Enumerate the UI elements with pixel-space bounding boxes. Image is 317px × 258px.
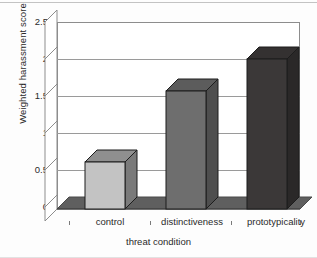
bar-prototypicality-3d [247, 47, 299, 209]
bar-control-3d [85, 150, 137, 209]
y-axis-tick-labels: 2.5 2 1.5 1 0.5 0 [20, 0, 48, 258]
x-category-control: control [70, 216, 150, 227]
x-category-prototypicality: prototypicality [228, 216, 317, 227]
bar-distinctiveness-3d [166, 79, 218, 209]
x-axis-title: threat condition [0, 236, 317, 247]
x-category-distinctiveness: distinctiveness [144, 216, 240, 227]
bar-distinctiveness[interactable] [166, 91, 206, 209]
plot-area [57, 22, 300, 209]
bar-chart-figure: Weighted harassment score 2.5 2 1.5 1 0.… [0, 0, 317, 258]
bar-series [57, 22, 300, 221]
bar-prototypicality[interactable] [247, 59, 287, 209]
x-axis-category-labels: control distinctiveness prototypicality [48, 216, 314, 232]
bar-control[interactable] [85, 162, 125, 209]
